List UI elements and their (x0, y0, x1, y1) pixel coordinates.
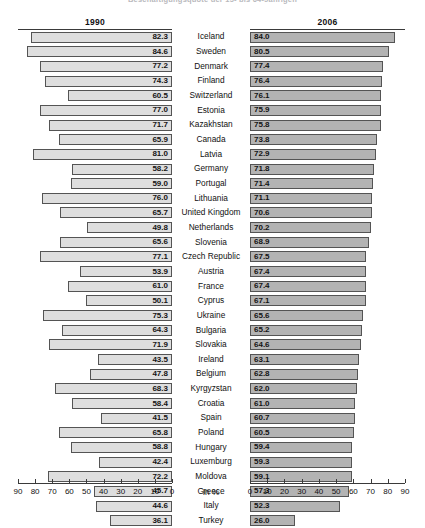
axis-tick (405, 479, 406, 483)
chart-title-strip: Beschäftigungsquote der 15- bis 64-Jähri… (0, 0, 425, 9)
chart-row: 44.6Italy52.3 (0, 499, 425, 514)
bar-cell-2006: 84.0 (250, 30, 405, 45)
bar-cell-2006: 59.3 (250, 455, 405, 470)
bar-cell-2006: 59.4 (250, 440, 405, 455)
bar-cell-1990: 53.9 (18, 265, 172, 280)
bar-value-1990: 77.1 (152, 253, 171, 261)
bar-value-2006: 71.1 (251, 194, 270, 202)
bar-value-1990: 77.2 (152, 62, 171, 70)
chart-row: 58.2Germany71.8 (0, 162, 425, 177)
bar-cell-1990: 47.8 (18, 367, 172, 382)
chart-row: 58.4Croatia61.0 (0, 396, 425, 411)
bar-value-2006: 77.4 (251, 62, 270, 70)
bar-cell-2006: 70.2 (250, 221, 405, 236)
bar-value-1990: 58.2 (152, 165, 171, 173)
bar-1990: 44.6 (96, 501, 172, 512)
bar-value-2006: 70.6 (251, 209, 270, 217)
bar-value-1990: 41.5 (152, 414, 171, 422)
axis-tick (250, 479, 251, 483)
chart-row: 41.5Spain60.7 (0, 411, 425, 426)
bar-1990: 65.9 (59, 134, 172, 145)
bar-value-1990: 36.1 (152, 517, 171, 525)
bar-value-2006: 60.5 (251, 429, 270, 437)
bar-value-1990: 82.3 (152, 33, 171, 41)
bar-value-1990: 84.6 (152, 48, 171, 56)
bar-2006: 72.9 (250, 149, 376, 160)
bar-1990: 81.0 (33, 149, 172, 160)
axis-tick (121, 479, 122, 483)
country-label: Switzerland (174, 90, 248, 101)
bar-value-1990: 81.0 (152, 150, 171, 158)
bar-cell-1990: 36.1 (18, 514, 172, 528)
bar-cell-2006: 67.4 (250, 279, 405, 294)
bar-value-1990: 58.8 (152, 443, 171, 451)
bar-cell-2006: 73.8 (250, 133, 405, 148)
bar-cell-1990: 61.0 (18, 279, 172, 294)
bar-1990: 77.2 (40, 61, 172, 72)
bar-cell-2006: 60.5 (250, 426, 405, 441)
axis-tick (18, 479, 19, 483)
bar-cell-1990: 59.0 (18, 177, 172, 192)
bar-1990: 61.0 (68, 281, 172, 292)
bar-value-2006: 26.0 (251, 517, 270, 525)
bar-value-1990: 61.0 (152, 282, 171, 290)
bar-value-2006: 65.6 (251, 312, 270, 320)
bar-value-2006: 64.6 (251, 341, 270, 349)
bar-cell-2006: 76.1 (250, 89, 405, 104)
bar-value-1990: 49.8 (152, 224, 171, 232)
chart-row: 53.9Austria67.4 (0, 265, 425, 280)
bar-1990: 65.8 (59, 427, 172, 438)
bar-cell-1990: 75.3 (18, 308, 172, 323)
bar-2006: 59.4 (250, 442, 352, 453)
axis-tick (302, 479, 303, 483)
bar-value-2006: 84.0 (251, 33, 270, 41)
bar-value-2006: 72.9 (251, 150, 270, 158)
bar-2006: 67.4 (250, 281, 366, 292)
bar-value-2006: 65.2 (251, 326, 270, 334)
bar-cell-1990: 65.6 (18, 235, 172, 250)
bar-1990: 77.1 (40, 251, 172, 262)
chart-row: 60.5Switzerland76.1 (0, 89, 425, 104)
bar-cell-1990: 65.9 (18, 133, 172, 148)
country-label: Lithuania (174, 193, 248, 204)
bar-2006: 65.2 (250, 325, 362, 336)
chart-rows: 82.3Iceland84.084.6Sweden80.577.2Denmark… (0, 30, 425, 528)
country-label: Germany (174, 163, 248, 174)
bar-1990: 41.5 (101, 413, 172, 424)
bar-value-2006: 52.3 (251, 502, 270, 510)
bar-2006: 70.2 (250, 222, 371, 233)
bar-2006: 71.1 (250, 193, 372, 204)
country-label: Netherlands (174, 222, 248, 233)
bar-cell-2006: 67.1 (250, 294, 405, 309)
bar-1990: 58.4 (72, 398, 172, 409)
country-label: Belgium (174, 368, 248, 379)
bar-1990: 58.2 (72, 164, 172, 175)
bar-2006: 77.4 (250, 61, 383, 72)
bar-1990: 71.7 (49, 120, 172, 131)
bar-cell-1990: 58.2 (18, 162, 172, 177)
bar-value-2006: 76.4 (251, 77, 270, 85)
bar-2006: 70.6 (250, 207, 372, 218)
bar-2006: 67.4 (250, 266, 366, 277)
chart-row: 77.0Estonia75.9 (0, 103, 425, 118)
bar-2006: 73.8 (250, 134, 377, 145)
bar-2006: 67.1 (250, 295, 366, 306)
bar-cell-1990: 42.4 (18, 455, 172, 470)
country-label: Kyrgyzstan (174, 383, 248, 394)
bar-cell-2006: 75.9 (250, 103, 405, 118)
country-label: Portugal (174, 178, 248, 189)
chart-row: 59.0Portugal71.4 (0, 177, 425, 192)
country-label: Finland (174, 75, 248, 86)
chart-row: 47.8Belgium62.8 (0, 367, 425, 382)
axis-tick (104, 479, 105, 483)
bar-value-1990: 58.4 (152, 400, 171, 408)
axis-tick (284, 479, 285, 483)
axis-tick (319, 479, 320, 483)
bar-1990: 82.3 (31, 32, 172, 43)
bar-value-1990: 64.3 (152, 326, 171, 334)
bar-cell-1990: 68.3 (18, 382, 172, 397)
country-label: Luxemburg (174, 456, 248, 467)
bar-cell-2006: 67.4 (250, 265, 405, 280)
chart-row: 58.8Hungary59.4 (0, 440, 425, 455)
